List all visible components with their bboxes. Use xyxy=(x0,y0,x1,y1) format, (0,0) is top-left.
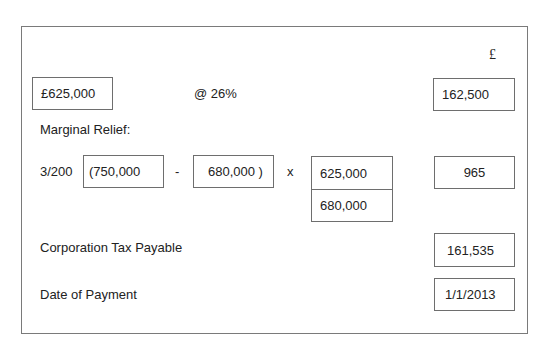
augmented-profits-box: 680,000 ) xyxy=(193,155,274,188)
marginal-relief-result-value: 965 xyxy=(464,165,486,180)
payment-date-label: Date of Payment xyxy=(40,287,137,303)
denominator-box: 680,000 xyxy=(311,189,393,222)
payment-date-box: 1/1/2013 xyxy=(434,278,515,311)
upper-limit-box: (750,000 xyxy=(83,155,164,188)
profits-box: £625,000 xyxy=(32,77,113,110)
tax-rate-label: @ 26% xyxy=(194,86,237,102)
numerator-value: 625,000 xyxy=(320,166,367,181)
upper-limit-value: (750,000 xyxy=(89,164,140,179)
multiply-sign: x xyxy=(287,164,294,180)
profits-value: £625,000 xyxy=(41,86,95,101)
marginal-relief-label: Marginal Relief: xyxy=(40,122,130,138)
tax-at-rate-value: 162,500 xyxy=(442,87,489,102)
numerator-box: 625,000 xyxy=(311,156,393,190)
tax-payable-box: 161,535 xyxy=(434,233,515,267)
denominator-value: 680,000 xyxy=(320,198,367,213)
augmented-profits-value: 680,000 ) xyxy=(208,164,263,179)
currency-header: £ xyxy=(489,47,496,63)
tax-at-rate-box: 162,500 xyxy=(433,78,515,111)
tax-payable-label: Corporation Tax Payable xyxy=(40,240,182,256)
tax-payable-value: 161,535 xyxy=(447,243,494,258)
payment-date-value: 1/1/2013 xyxy=(445,287,496,302)
fraction-label: 3/200 xyxy=(40,164,73,180)
marginal-relief-result-box: 965 xyxy=(434,156,515,189)
minus-sign: - xyxy=(175,164,179,180)
